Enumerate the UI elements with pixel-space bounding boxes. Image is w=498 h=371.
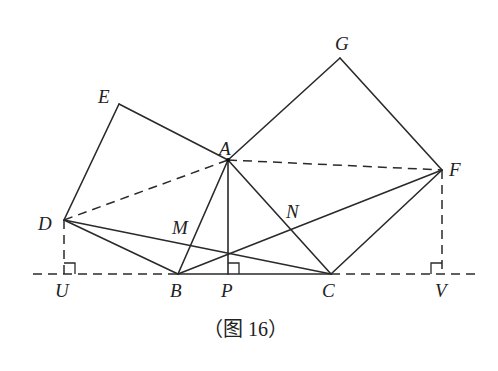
segment-AF-dashed xyxy=(228,160,442,170)
segment-AG xyxy=(228,58,340,160)
label-N: N xyxy=(285,201,300,222)
right-angle-mark-U xyxy=(64,263,75,274)
label-U: U xyxy=(55,280,70,301)
label-F: F xyxy=(448,159,461,180)
segment-GF xyxy=(340,58,442,170)
right-angle-mark-V xyxy=(431,263,442,274)
label-E: E xyxy=(97,86,110,107)
figure-caption: （图 16） xyxy=(203,318,288,340)
label-D: D xyxy=(37,213,52,234)
label-V: V xyxy=(435,280,449,301)
label-G: G xyxy=(335,33,349,54)
geometry-figure: E G A F D M N U B P C V （图 16） xyxy=(0,0,498,371)
segment-DB xyxy=(64,220,178,274)
segment-EA xyxy=(119,104,228,160)
label-B: B xyxy=(170,280,182,301)
label-A: A xyxy=(217,138,231,159)
label-P: P xyxy=(220,280,233,301)
segment-FC xyxy=(331,170,442,274)
label-M: M xyxy=(171,217,189,238)
label-C: C xyxy=(322,280,335,301)
right-angle-mark-P xyxy=(228,263,239,274)
